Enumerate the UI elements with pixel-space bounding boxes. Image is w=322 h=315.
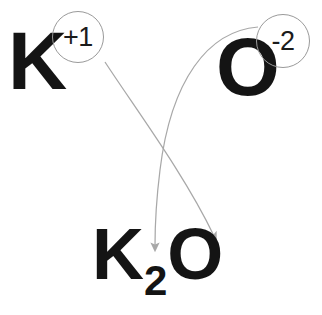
product-cation-symbol: K: [92, 214, 144, 294]
cation-charge-label: +1: [63, 22, 93, 53]
cation-charge-bubble: +1: [52, 11, 104, 63]
anion-charge-bubble: -2: [256, 14, 310, 68]
product-anion-symbol: O: [167, 214, 223, 294]
product-cation-subscript: 2: [144, 257, 167, 304]
product-formula: K2O: [92, 218, 223, 302]
arrow-plus-one-to-oxygen-subscript: [105, 62, 214, 236]
criss-cross-diagram: K +1 O -2 K2O: [0, 0, 322, 315]
anion-charge-label: -2: [271, 26, 294, 57]
